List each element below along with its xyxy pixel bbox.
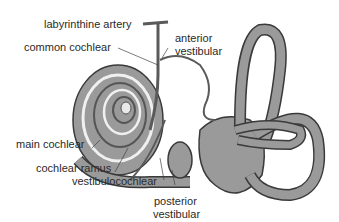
- inner-ear-artery-diagram: labyrinthine artery common cochlear ante…: [0, 0, 339, 222]
- label-common-cochlear: common cochlear: [24, 41, 111, 53]
- label-posterior-vestibular-2: vestibular: [153, 208, 200, 220]
- anatomy-illustration: [0, 0, 339, 222]
- label-vestibulocochlear: vestibulocochlear: [72, 175, 157, 187]
- label-cochlear-ramus: cochlear ramus: [36, 162, 111, 174]
- label-anterior-vestibular-2: vestibular: [175, 45, 222, 57]
- label-posterior-vestibular-1: posterior: [154, 195, 197, 207]
- label-main-cochlear: main cochlear: [16, 138, 84, 150]
- label-anterior-vestibular-1: anterior: [175, 32, 212, 44]
- label-labyrinthine-artery: labyrinthine artery: [44, 18, 131, 30]
